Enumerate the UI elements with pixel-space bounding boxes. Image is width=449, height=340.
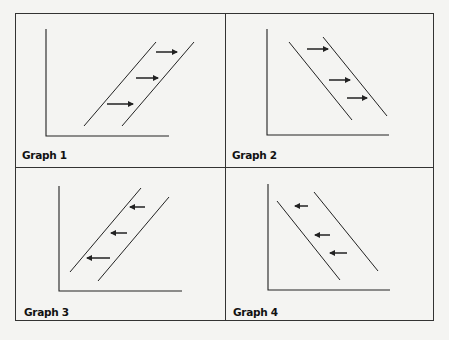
graph-1-panel xyxy=(46,29,194,136)
curve-2 xyxy=(122,42,194,126)
graph-4-panel xyxy=(268,184,390,290)
axes xyxy=(46,29,169,136)
axes xyxy=(267,29,389,135)
graph-3-panel xyxy=(59,186,182,291)
axes xyxy=(268,184,390,290)
curve-1 xyxy=(289,42,352,120)
graph-3-label: Graph 3 xyxy=(24,306,69,318)
graph-2-label: Graph 2 xyxy=(232,149,277,161)
graph-1-label: Graph 1 xyxy=(22,149,67,161)
curve-1 xyxy=(70,188,141,272)
four-graph-figure: Graph 1 Graph 2 Graph 3 Graph 4 xyxy=(0,0,449,340)
graph-4-label: Graph 4 xyxy=(233,306,278,318)
curve-2 xyxy=(323,37,387,116)
graph-2-panel xyxy=(267,29,389,135)
graph-grid xyxy=(0,0,449,340)
curve-1 xyxy=(84,42,156,126)
curve-2 xyxy=(98,197,169,281)
axes xyxy=(59,186,182,291)
